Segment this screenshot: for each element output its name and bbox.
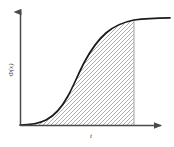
y-axis-label: Φ(x) [7,63,15,77]
figure-container: Φ(x) t [0,0,174,147]
shaded-area-under-curve [20,20,134,125]
x-axis-label: t [90,132,93,140]
sigmoid-cdf-chart: Φ(x) t [0,0,174,147]
